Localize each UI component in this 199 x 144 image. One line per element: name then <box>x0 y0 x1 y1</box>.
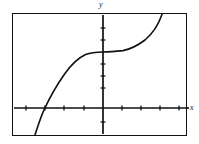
graph-svg <box>0 0 199 144</box>
x-axis-label: x <box>190 104 194 112</box>
cubic-curve <box>35 15 162 137</box>
y-axis-label: y <box>99 1 103 9</box>
figure-canvas: y x <box>0 0 199 144</box>
